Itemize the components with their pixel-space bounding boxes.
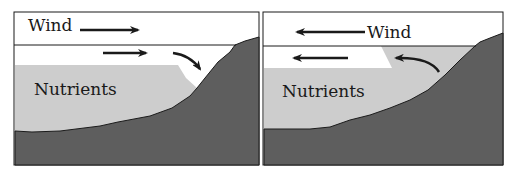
nutrients-label: Nutrients [34,79,117,99]
wind-label: Wind [28,15,73,35]
wind-label: Wind [367,22,412,42]
nutrients-label: Nutrients [282,81,365,101]
panel-downwelling: Wind Nutrients [14,12,259,165]
panel-upwelling: Wind Nutrients [263,12,503,165]
